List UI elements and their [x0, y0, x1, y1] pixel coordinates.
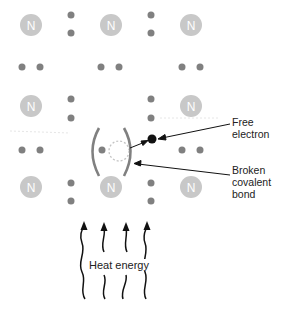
- svg-text:N: N: [187, 181, 196, 195]
- heat-arrowheads: [81, 221, 151, 231]
- svg-text:N: N: [187, 100, 196, 114]
- atom: N: [180, 14, 202, 36]
- atom: N: [100, 176, 122, 198]
- bond-electrons: [19, 12, 204, 205]
- svg-text:N: N: [187, 19, 196, 33]
- atom: N: [100, 14, 122, 36]
- free-electron-label: Free electron: [232, 116, 269, 140]
- atom: N: [20, 95, 42, 117]
- atom: N: [20, 176, 42, 198]
- broken-bond-pointer: [134, 161, 230, 176]
- atom: N: [180, 95, 202, 117]
- atom: N: [20, 14, 42, 36]
- svg-text:N: N: [27, 100, 36, 114]
- faint-dotted-line: [10, 118, 220, 133]
- left-bracket: [93, 128, 100, 176]
- heat-energy-label: Heat energy: [89, 259, 149, 271]
- free-electron: [148, 135, 157, 144]
- free-electron-pointer: [158, 124, 230, 140]
- svg-text:N: N: [107, 19, 116, 33]
- svg-text:N: N: [27, 181, 36, 195]
- hole-to-electron-arrow: [130, 141, 148, 149]
- broken-bond-label: Broken covalent bond: [232, 164, 271, 200]
- hole: [109, 141, 129, 161]
- atom: N: [180, 176, 202, 198]
- atoms: N N N N N N N N: [20, 14, 202, 198]
- svg-text:N: N: [107, 181, 116, 195]
- svg-text:N: N: [27, 19, 36, 33]
- right-bracket: [124, 128, 131, 176]
